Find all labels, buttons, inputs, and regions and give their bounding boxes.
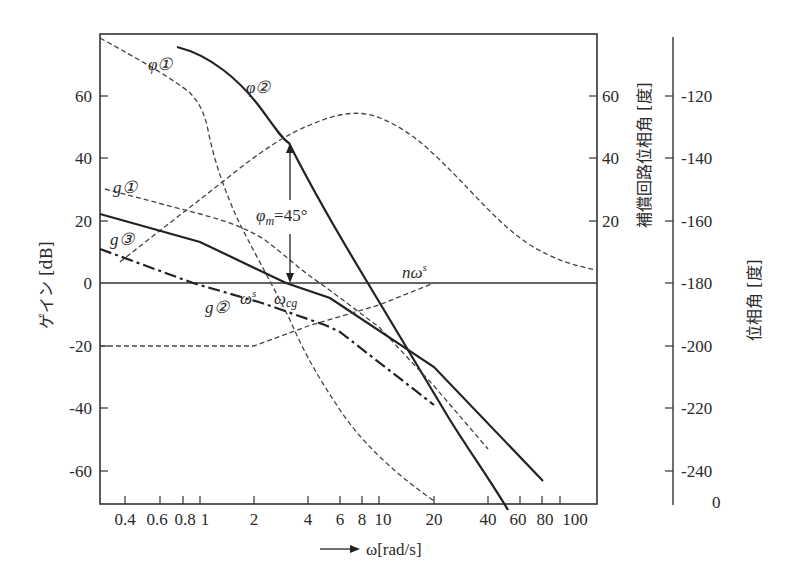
svg-text:-180: -180 (681, 274, 712, 293)
g2-curve (100, 249, 434, 405)
svg-text:-140: -140 (681, 149, 712, 168)
compensator-axis-labels: 60 40 20 (602, 87, 619, 231)
svg-text:0: 0 (84, 274, 93, 293)
svg-text:40: 40 (602, 149, 619, 168)
omega-s-label: ωs (240, 287, 256, 308)
phi1-label: φ① (148, 55, 173, 74)
svg-text:1: 1 (201, 510, 210, 529)
omega-cg-label: ωcg (274, 289, 297, 310)
svg-text:10: 10 (375, 510, 392, 529)
svg-text:ω[rad/s]: ω[rad/s] (366, 540, 422, 559)
svg-text:20: 20 (75, 212, 92, 231)
compensator-axis-title: 補償回路位相角 [度] (635, 82, 654, 228)
svg-text:-240: -240 (681, 462, 712, 481)
svg-text:4: 4 (304, 510, 313, 529)
left-y-tick-labels: 60 40 20 0 -20 -40 -60 (69, 87, 92, 481)
svg-text:0.8: 0.8 (174, 510, 195, 529)
phi2-curve (177, 47, 508, 510)
svg-text:-160: -160 (681, 212, 712, 231)
svg-text:-220: -220 (681, 399, 712, 418)
svg-text:0.4: 0.4 (114, 510, 136, 529)
svg-text:80: 80 (537, 510, 554, 529)
svg-text:60: 60 (75, 87, 92, 106)
svg-text:40: 40 (75, 149, 92, 168)
phase-axis-ticks (665, 96, 673, 471)
svg-text:60: 60 (510, 510, 527, 529)
svg-text:20: 20 (602, 212, 619, 231)
svg-text:8: 8 (358, 510, 367, 529)
n-omega-s-label: nωs (402, 261, 427, 282)
phase-axis-title: 位相角 [度] (745, 259, 764, 341)
plot-frame (100, 34, 597, 504)
g1-curve (105, 189, 488, 449)
phi1-curve (100, 38, 434, 501)
svg-text:6: 6 (336, 510, 345, 529)
g3-curve (100, 214, 543, 481)
x-axis-labels: 0.4 0.6 0.8 1 2 4 6 8 10 20 40 60 80 100 (114, 510, 587, 529)
svg-text:0: 0 (712, 493, 721, 512)
svg-text:40: 40 (480, 510, 497, 529)
compensator-phase-curve (120, 113, 597, 270)
g2-label: g② (205, 298, 230, 317)
svg-text:-40: -40 (69, 399, 92, 418)
x-axis-ticks (125, 496, 560, 504)
svg-text:-200: -200 (681, 337, 712, 356)
svg-text:20: 20 (426, 510, 443, 529)
g3-label: g③ (110, 230, 135, 249)
svg-text:2: 2 (250, 510, 259, 529)
svg-text:-60: -60 (69, 462, 92, 481)
svg-text:0.6: 0.6 (146, 510, 167, 529)
svg-text:-120: -120 (681, 87, 712, 106)
phase-axis-labels: -120 -140 -160 -180 -200 -220 -240 0 (681, 87, 721, 512)
left-axis-title: ゲイン [dB] (37, 241, 56, 329)
svg-text:100: 100 (562, 510, 588, 529)
phi2-label: φ② (246, 78, 271, 97)
x-axis-title: ω[rad/s] (320, 540, 422, 559)
compensator-axis-ticks (589, 96, 597, 221)
g1-label: g① (113, 178, 138, 197)
compensator-gain-curve (100, 283, 434, 346)
svg-text:-20: -20 (69, 337, 92, 356)
bode-plot: 60 40 20 0 -20 -40 -60 ゲイン [dB] 60 40 20… (0, 0, 791, 581)
phi-m-label: φm=45° (256, 206, 307, 228)
svg-text:60: 60 (602, 87, 619, 106)
